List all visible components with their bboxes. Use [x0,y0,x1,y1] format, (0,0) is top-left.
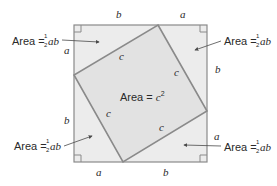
side-label-bottom-b: b [163,166,169,178]
side-label-left-a: a [64,44,70,56]
side-label-right-a: a [214,130,220,142]
svg-text:Area =: Area = [224,35,257,47]
svg-text:ab: ab [260,141,272,153]
side-label-bottom-a: a [96,166,102,178]
svg-text:ab: ab [50,140,62,152]
svg-text:Area =: Area = [12,35,45,47]
pythagorean-proof-diagram: b a b a b a b a c c c c Area = c2 Area =… [0,0,277,186]
side-label-left-b: b [64,114,70,126]
svg-text:Area =: Area = [14,140,47,152]
svg-text:ab: ab [260,35,272,47]
side-label-right-b: b [215,63,221,75]
svg-text:ab: ab [48,35,60,47]
inner-area-label: Area = c2 [120,90,165,103]
side-label-top-a: a [180,8,186,20]
inner-side-label-c: c [159,121,164,133]
inner-side-label-c: c [174,66,179,78]
inner-side-label-c: c [119,50,124,62]
svg-text:Area =: Area = [224,141,257,153]
inner-side-label-c: c [106,107,111,119]
side-label-top-b: b [116,8,122,20]
svg-text:Area = c2: Area = c2 [120,90,165,103]
